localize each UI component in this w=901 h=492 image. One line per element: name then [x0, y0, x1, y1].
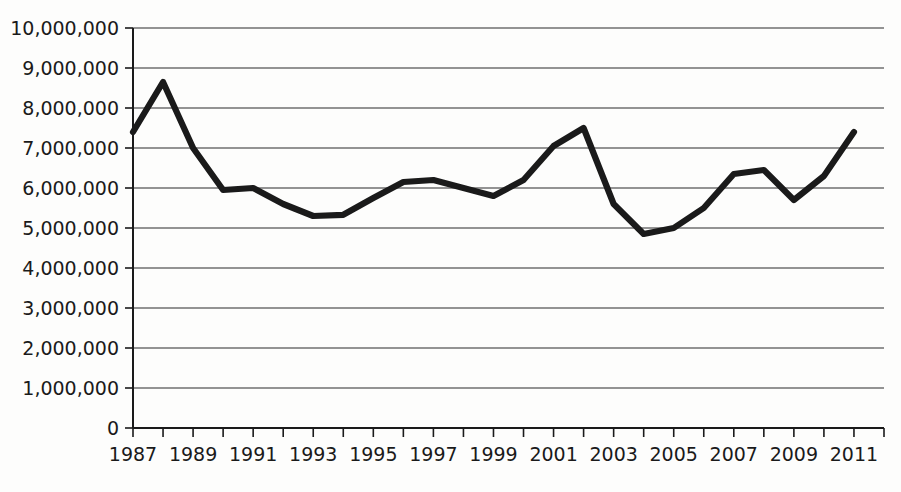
y-tick-label: 2,000,000 [22, 337, 119, 359]
y-tick-label: 9,000,000 [22, 57, 119, 79]
x-tick-label: 2011 [830, 443, 878, 465]
x-tick-label: 2007 [710, 443, 758, 465]
y-tick-label: 4,000,000 [22, 257, 119, 279]
y-tick-label: 1,000,000 [22, 377, 119, 399]
y-tick-label: 6,000,000 [22, 177, 119, 199]
x-axis-tick-labels: 1987198919911993199519971999200120032005… [109, 443, 878, 465]
line-chart: 01,000,0002,000,0003,000,0004,000,0005,0… [0, 0, 901, 492]
y-tick-label: 7,000,000 [22, 137, 119, 159]
y-axis-ticks [125, 28, 133, 428]
y-tick-label: 0 [107, 417, 119, 439]
y-tick-label: 5,000,000 [22, 217, 119, 239]
x-tick-label: 1987 [109, 443, 157, 465]
y-axis-tick-labels: 01,000,0002,000,0003,000,0004,000,0005,0… [10, 17, 119, 439]
x-tick-label: 1997 [409, 443, 457, 465]
y-tick-label: 8,000,000 [22, 97, 119, 119]
x-tick-label: 1995 [349, 443, 397, 465]
data-series-line [133, 82, 854, 234]
x-tick-label: 2003 [589, 443, 637, 465]
gridlines [133, 28, 884, 388]
x-tick-label: 2009 [770, 443, 818, 465]
chart-canvas: 01,000,0002,000,0003,000,0004,000,0005,0… [0, 0, 901, 492]
x-tick-label: 1993 [289, 443, 337, 465]
x-tick-label: 1989 [169, 443, 217, 465]
x-axis-ticks [133, 428, 884, 437]
y-tick-label: 10,000,000 [10, 17, 119, 39]
x-tick-label: 2001 [529, 443, 577, 465]
x-tick-label: 1991 [229, 443, 277, 465]
y-tick-label: 3,000,000 [22, 297, 119, 319]
x-tick-label: 1999 [469, 443, 517, 465]
x-tick-label: 2005 [650, 443, 698, 465]
